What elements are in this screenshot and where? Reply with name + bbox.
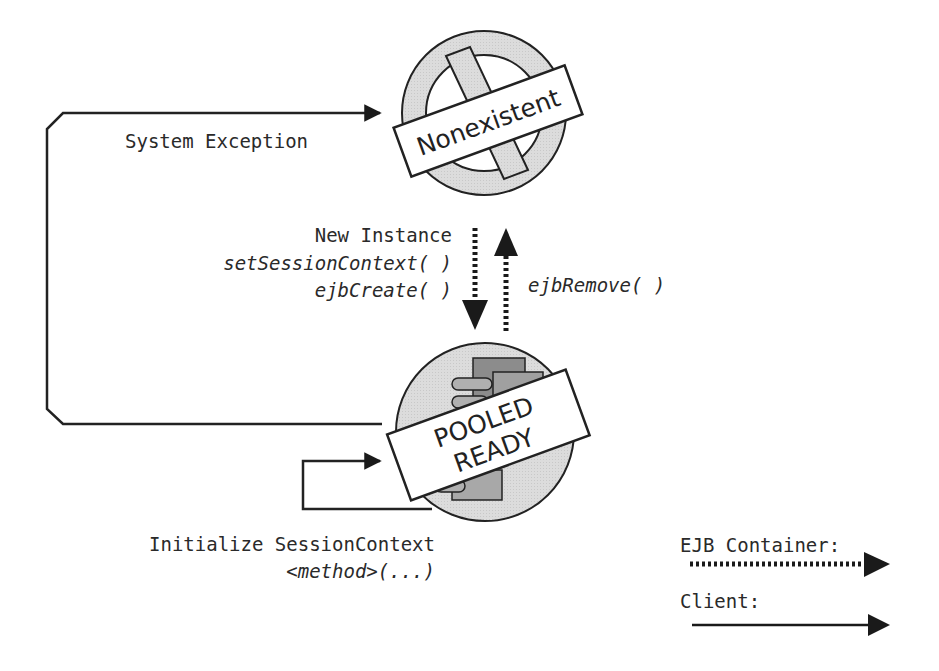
business-method-label: <method>(...) (286, 560, 435, 582)
legend-container-arrowhead-icon (864, 552, 890, 577)
legend-container-label: EJB Container: (680, 534, 840, 556)
initialize-session-context-label: Initialize SessionContext (149, 533, 435, 555)
set-session-context-label: setSessionContext( ) (223, 252, 452, 274)
state-pooled-ready: POOLED READY (387, 343, 589, 521)
state-nonexistent: Nonexistent (394, 31, 583, 195)
legend-client-label: Client: (680, 590, 760, 612)
ejb-remove-label: ejbRemove( ) (528, 274, 665, 296)
system-exception-label: System Exception (125, 130, 308, 152)
ejb-lifecycle-diagram: System Exception Nonexistent New Instanc… (0, 0, 939, 671)
legend: EJB Container: Client: (680, 534, 890, 636)
ejb-create-label: ejbCreate( ) (315, 279, 452, 301)
legend-client-arrowhead-icon (868, 614, 890, 636)
new-instance-label: New Instance (315, 224, 452, 246)
remove-arrow (494, 228, 518, 332)
create-arrow (462, 228, 488, 330)
